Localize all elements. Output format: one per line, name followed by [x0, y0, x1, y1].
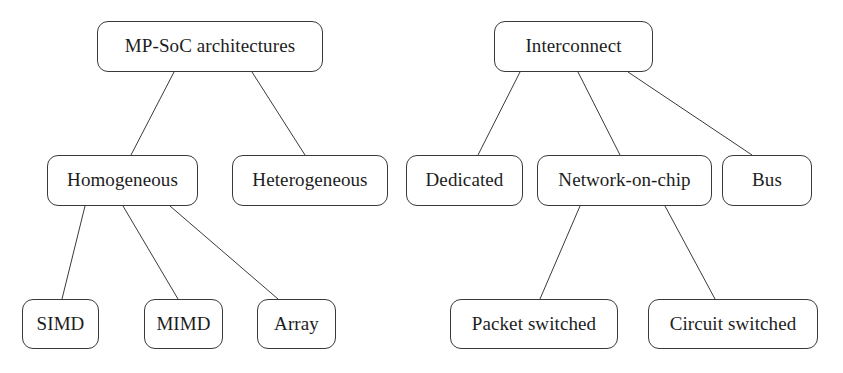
node-homogeneous[interactable]: Homogeneous [47, 155, 198, 206]
node-simd[interactable]: SIMD [22, 299, 99, 349]
node-label-circuit-switched: Circuit switched [670, 314, 797, 335]
node-label-bus: Bus [752, 170, 782, 191]
node-interconnect[interactable]: Interconnect [494, 21, 653, 72]
edge-mp-soc-to-heterogeneous [252, 72, 305, 155]
node-label-dedicated: Dedicated [426, 170, 504, 191]
edge-interconnect-to-network-on-chip [578, 72, 620, 155]
edge-homogeneous-to-array [170, 206, 278, 299]
node-label-packet-switched: Packet switched [472, 314, 596, 335]
node-dedicated[interactable]: Dedicated [406, 155, 523, 206]
node-label-mp-soc: MP-SoC architectures [125, 36, 295, 57]
node-label-simd: SIMD [37, 314, 85, 335]
edge-interconnect-to-dedicated [478, 72, 520, 155]
node-bus[interactable]: Bus [722, 155, 812, 206]
node-heterogeneous[interactable]: Heterogeneous [232, 155, 388, 206]
edge-homogeneous-to-mimd [123, 206, 178, 299]
node-label-heterogeneous: Heterogeneous [252, 170, 367, 191]
node-label-mimd: MIMD [156, 314, 210, 335]
node-packet-switched[interactable]: Packet switched [450, 299, 618, 349]
edge-network-on-chip-to-circuit-switched [665, 206, 715, 299]
node-circuit-switched[interactable]: Circuit switched [648, 299, 818, 349]
node-label-homogeneous: Homogeneous [67, 170, 178, 191]
node-label-interconnect: Interconnect [525, 36, 621, 57]
edge-interconnect-to-bus [628, 72, 752, 155]
node-label-array: Array [274, 314, 319, 335]
node-mimd[interactable]: MIMD [144, 299, 223, 349]
node-label-network-on-chip: Network-on-chip [558, 170, 690, 191]
edge-network-on-chip-to-packet-switched [540, 206, 580, 299]
node-array[interactable]: Array [257, 299, 336, 349]
edge-mp-soc-to-homogeneous [131, 72, 174, 155]
node-mp-soc[interactable]: MP-SoC architectures [97, 21, 323, 72]
node-network-on-chip[interactable]: Network-on-chip [537, 155, 712, 206]
diagram-canvas: MP-SoC architecturesHomogeneousHeterogen… [0, 0, 843, 373]
edge-homogeneous-to-simd [62, 206, 85, 299]
